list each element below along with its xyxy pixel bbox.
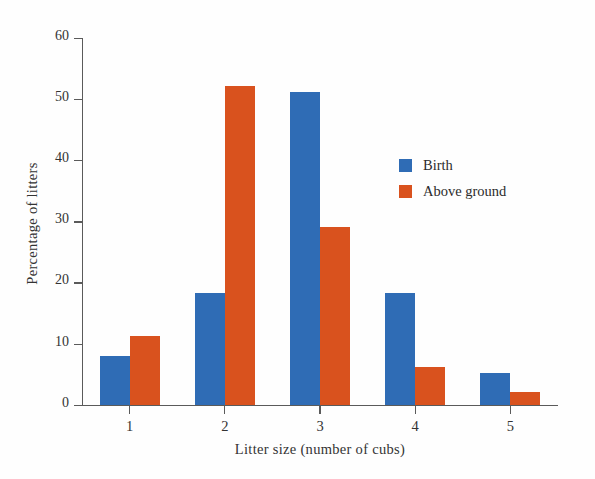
y-axis-tick-label: 50: [55, 89, 69, 105]
y-axis-tick: 50: [74, 99, 82, 100]
y-axis-line: [82, 38, 83, 406]
x-axis-tick-label: 2: [205, 418, 245, 435]
bar-birth-1: [100, 356, 130, 405]
legend-label-above-ground: Above ground: [423, 183, 506, 200]
x-axis-tick-label: 3: [300, 418, 340, 435]
bar-above-ground-4: [415, 367, 445, 405]
y-axis-tick: 0: [74, 405, 82, 406]
x-axis-tick: [415, 405, 416, 414]
bar-birth-3: [290, 92, 320, 405]
bar-above-ground-2: [225, 86, 255, 405]
bar-above-ground-5: [510, 392, 540, 404]
bar-birth-5: [480, 373, 510, 404]
bar-birth-4: [385, 293, 415, 404]
y-axis-tick-label: 30: [55, 211, 69, 227]
y-axis-title: Percentage of litters: [24, 129, 41, 319]
y-axis-tick: 30: [74, 221, 82, 222]
chart-legend: Birth Above ground: [399, 152, 506, 204]
y-axis-tick-label: 60: [55, 28, 69, 44]
y-axis-tick-label: 40: [55, 150, 69, 166]
y-axis-tick: 10: [74, 344, 82, 345]
y-axis-tick-label: 20: [55, 272, 69, 288]
legend-item-birth: Birth: [399, 152, 506, 178]
bar-chart-figure: Percentage of litters Litter size (numbe…: [0, 0, 595, 479]
y-axis-tick-label: 0: [62, 395, 69, 411]
x-axis-title: Litter size (number of cubs): [82, 441, 558, 458]
y-axis-tick: 40: [74, 160, 82, 161]
bar-above-ground-1: [130, 336, 160, 405]
legend-label-birth: Birth: [423, 157, 453, 174]
y-axis-tick-label: 10: [55, 334, 69, 350]
bar-birth-2: [195, 293, 225, 404]
x-axis-tick-label: 1: [110, 418, 150, 435]
legend-swatch-birth-icon: [399, 159, 412, 172]
x-axis-tick: [129, 405, 130, 414]
plot-area: 0102030405060 12345: [82, 38, 558, 406]
bar-above-ground-3: [320, 227, 350, 404]
y-axis-tick: 60: [74, 38, 82, 39]
x-axis-tick: [224, 405, 225, 414]
legend-swatch-above-ground-icon: [399, 185, 412, 198]
x-axis-tick-label: 5: [490, 418, 530, 435]
x-axis-tick-label: 4: [395, 418, 435, 435]
x-axis-tick: [319, 405, 320, 414]
y-axis-tick: 20: [74, 282, 82, 283]
x-axis-tick: [510, 405, 511, 414]
legend-item-above-ground: Above ground: [399, 178, 506, 204]
